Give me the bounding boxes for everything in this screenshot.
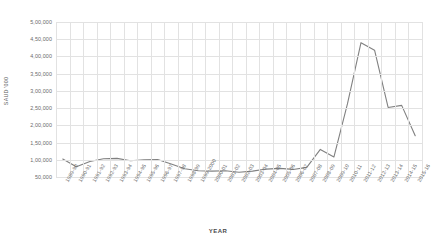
gridline-vertical xyxy=(232,22,233,177)
x-axis-title: YEAR xyxy=(0,228,436,234)
y-axis-tick-label: 1,50,000 xyxy=(0,140,52,146)
plot-area xyxy=(56,22,422,177)
gridline-vertical xyxy=(354,22,355,177)
y-axis-title: SAUD '000 xyxy=(3,64,9,118)
gridline-vertical xyxy=(259,22,260,177)
y-axis-tick-label: 5,00,000 xyxy=(0,19,52,25)
gridline-vertical xyxy=(97,22,98,177)
gridline-vertical xyxy=(341,22,342,177)
gridline-vertical xyxy=(286,22,287,177)
gridline-vertical xyxy=(151,22,152,177)
gridline-vertical xyxy=(381,22,382,177)
gridline-vertical xyxy=(164,22,165,177)
gridline-vertical xyxy=(246,22,247,177)
gridline-vertical xyxy=(56,22,57,177)
gridline-vertical xyxy=(422,22,423,177)
y-axis-tick-label: 1,00,000 xyxy=(0,157,52,163)
gridline-vertical xyxy=(124,22,125,177)
gridline-vertical xyxy=(110,22,111,177)
gridline-vertical xyxy=(300,22,301,177)
gridline-vertical xyxy=(368,22,369,177)
gridline-vertical xyxy=(219,22,220,177)
gridline-vertical xyxy=(273,22,274,177)
gridline-vertical xyxy=(314,22,315,177)
gridline-vertical xyxy=(408,22,409,177)
gridline-vertical xyxy=(205,22,206,177)
y-axis-tick-label: 50,000 xyxy=(0,174,52,180)
gridline-vertical xyxy=(137,22,138,177)
line-chart: 5,00,0004,50,0004,00,0003,50,0003,00,000… xyxy=(0,0,436,246)
gridline-vertical xyxy=(395,22,396,177)
gridline-vertical xyxy=(327,22,328,177)
y-axis-tick-label: 2,00,000 xyxy=(0,122,52,128)
gridline-vertical xyxy=(178,22,179,177)
gridline-vertical xyxy=(70,22,71,177)
gridline-vertical xyxy=(83,22,84,177)
y-axis-tick-label: 4,00,000 xyxy=(0,53,52,59)
x-axis-tick-labels: 1989-901990-911991-921992-931993-941994-… xyxy=(56,180,422,228)
y-axis-tick-label: 4,50,000 xyxy=(0,36,52,42)
gridline-vertical xyxy=(192,22,193,177)
